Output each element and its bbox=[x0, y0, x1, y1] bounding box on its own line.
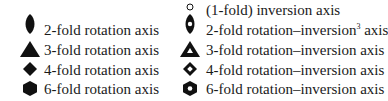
legend-label-3fold-rotoinversion: 3-fold rotation–inversion axis bbox=[206, 41, 384, 59]
legend-label-4fold-rotoinversion: 4-fold rotation–inversion axis bbox=[206, 61, 384, 79]
legend-label-2fold-rotation: 2-fold rotation axis bbox=[44, 21, 159, 39]
label-text: 2-fold rotation–inversion bbox=[206, 22, 356, 38]
filled-diamond-icon bbox=[23, 62, 37, 76]
legend-label-4fold-rotation: 4-fold rotation axis bbox=[44, 61, 159, 79]
filled-triangle-icon bbox=[20, 41, 40, 57]
lens-with-hole-icon bbox=[183, 14, 197, 34]
filled-hexagon-icon bbox=[23, 81, 37, 96]
diamond-with-hole-icon bbox=[183, 62, 197, 76]
legend-label-2fold-rotoinversion: 2-fold rotation–inversion3 axis bbox=[206, 21, 388, 39]
filled-lens-icon bbox=[23, 14, 37, 34]
label-text: axis bbox=[360, 22, 388, 38]
legend-label-inversion: (1-fold) inversion axis bbox=[206, 1, 340, 19]
open-circle-icon bbox=[186, 3, 194, 11]
legend-label-6fold-rotoinversion: 6-fold rotation–inversion axis bbox=[206, 80, 384, 98]
legend-label-6fold-rotation: 6-fold rotation axis bbox=[44, 80, 159, 98]
hexagon-with-hole-icon bbox=[183, 81, 197, 96]
triangle-with-hole-icon bbox=[180, 41, 200, 57]
legend-label-3fold-rotation: 3-fold rotation axis bbox=[44, 41, 159, 59]
